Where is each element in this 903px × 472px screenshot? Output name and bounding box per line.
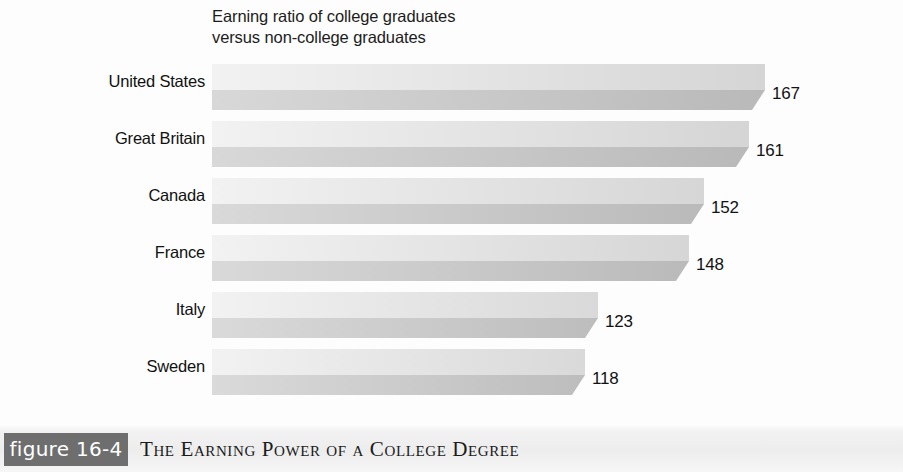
figure-number-badge: figure 16-4 bbox=[4, 433, 128, 466]
value-label: 148 bbox=[696, 255, 724, 275]
category-label-wrap: Great Britain bbox=[10, 119, 205, 167]
bar-shape bbox=[212, 292, 607, 338]
bar-shape bbox=[212, 64, 772, 110]
category-label-wrap: Canada bbox=[10, 176, 205, 224]
bar-shape bbox=[212, 178, 712, 224]
value-label: 118 bbox=[592, 369, 619, 389]
plot-area: United States 167 Great Britain bbox=[0, 62, 903, 414]
category-label: Italy bbox=[20, 300, 205, 319]
value-label: 123 bbox=[605, 312, 633, 332]
chart-title: Earning ratio of college graduates versu… bbox=[212, 6, 632, 48]
category-label-wrap: Italy bbox=[10, 290, 205, 338]
figure-container: Earning ratio of college graduates versu… bbox=[0, 0, 903, 472]
figure-caption-strip: figure 16-4 The Earning Power of a Colle… bbox=[0, 424, 903, 472]
bar-row: Sweden 118 bbox=[0, 347, 903, 404]
bar-shape bbox=[212, 349, 594, 395]
bar-row: Canada 152 bbox=[0, 176, 903, 233]
category-label-wrap: Sweden bbox=[10, 347, 205, 395]
bar-row: France 148 bbox=[0, 233, 903, 290]
bar-row: United States 167 bbox=[0, 62, 903, 119]
category-label: Great Britain bbox=[20, 129, 205, 148]
category-label: Canada bbox=[20, 186, 205, 205]
bar-shape bbox=[212, 235, 697, 281]
figure-caption-text: The Earning Power of a College Degree bbox=[140, 434, 519, 465]
category-label: Sweden bbox=[20, 357, 205, 376]
category-label: France bbox=[20, 243, 205, 262]
bar-row: Great Britain 161 bbox=[0, 119, 903, 176]
value-label: 152 bbox=[711, 198, 739, 218]
bar-row: Italy 123 bbox=[0, 290, 903, 347]
value-label: 161 bbox=[756, 141, 784, 161]
bar-shape bbox=[212, 121, 757, 167]
category-label-wrap: France bbox=[10, 233, 205, 281]
category-label-wrap: United States bbox=[10, 62, 205, 110]
category-label: United States bbox=[20, 72, 205, 91]
value-label: 167 bbox=[772, 84, 800, 104]
